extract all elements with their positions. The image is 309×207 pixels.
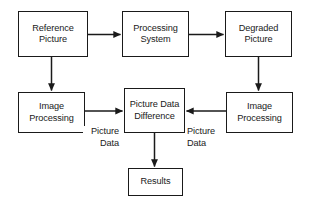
node-label-line: Image [39,101,64,112]
node-image-processing-left[interactable]: Image Processing [18,92,85,133]
node-label-line: Image [247,101,272,112]
edge-label-line: Picture [187,126,223,138]
node-label-line: Reference [32,23,74,34]
edge-label-picture-data-right: Picture Data [187,126,223,149]
node-results[interactable]: Results [128,168,183,196]
edge-label-line: Data [83,138,119,150]
node-reference-picture[interactable]: Reference Picture [18,11,88,57]
node-label-line: Processing [29,113,73,124]
node-label-line: Degraded [239,23,279,34]
edge-label-line: Picture [83,126,119,138]
node-image-processing-right[interactable]: Image Processing [226,92,293,133]
edge-label-picture-data-left: Picture Data [83,126,119,149]
node-label-line: Results [141,176,171,187]
node-processing-system[interactable]: Processing System [122,11,189,57]
edge-label-line: Data [187,138,223,150]
node-label-line: Processing [237,113,281,124]
node-label-line: System [140,34,170,45]
node-label-line: Processing [133,23,177,34]
node-picture-data-difference[interactable]: Picture Data Difference [124,88,185,133]
node-label-line: Picture [245,34,273,45]
node-label-line: Difference [134,111,175,122]
node-label-line: Picture [39,34,67,45]
node-label-line: Picture Data [130,99,179,110]
node-degraded-picture[interactable]: Degraded Picture [225,11,292,57]
flowchart-diagram: Reference Picture Processing System Degr… [0,0,309,207]
